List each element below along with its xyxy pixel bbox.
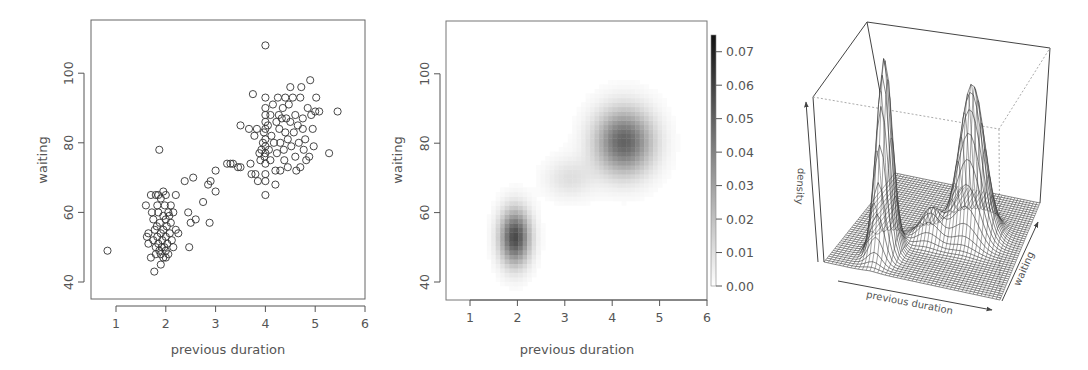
x-tick-label: 5 bbox=[656, 310, 664, 325]
data-point bbox=[151, 268, 158, 275]
data-point bbox=[212, 188, 219, 195]
surface-y-axis-label: waiting bbox=[1011, 250, 1036, 288]
scatter-x-axis: 123456 bbox=[112, 306, 369, 331]
data-point bbox=[212, 167, 219, 174]
data-point bbox=[292, 111, 299, 118]
data-point bbox=[262, 191, 269, 198]
data-point bbox=[147, 254, 154, 261]
x-tick-label: 2 bbox=[162, 316, 170, 331]
scatter-points bbox=[104, 42, 341, 275]
x-tick-label: 1 bbox=[466, 310, 474, 325]
x-tick-label: 6 bbox=[361, 316, 369, 331]
data-point bbox=[294, 122, 301, 129]
data-point bbox=[200, 198, 207, 205]
figure: 123456 406080100 previous duration waiti… bbox=[0, 0, 1088, 370]
heatmap-y-axis: 406080100 bbox=[417, 62, 440, 290]
data-point bbox=[273, 150, 280, 157]
data-point bbox=[288, 143, 295, 150]
data-point bbox=[262, 94, 269, 101]
data-point bbox=[254, 178, 261, 185]
colorbar-tick-label: 0.05 bbox=[726, 111, 754, 126]
x-tick-label: 3 bbox=[212, 316, 220, 331]
data-point bbox=[185, 209, 192, 216]
data-point bbox=[172, 191, 179, 198]
x-tick-label: 4 bbox=[608, 310, 616, 325]
data-point bbox=[290, 129, 297, 136]
data-point bbox=[262, 171, 269, 178]
data-point bbox=[273, 118, 280, 125]
y-tick-label: 100 bbox=[61, 61, 76, 85]
scatter-panel: 123456 406080100 previous duration waiti… bbox=[35, 20, 369, 357]
y-tick-label: 60 bbox=[417, 205, 432, 221]
box-edges-hidden bbox=[813, 48, 1050, 129]
data-point bbox=[284, 164, 291, 171]
y-tick-label: 60 bbox=[61, 204, 76, 220]
data-point bbox=[280, 146, 287, 153]
surface-panel: density previous duration waiting bbox=[794, 22, 1050, 316]
data-point bbox=[281, 157, 288, 164]
heatmap-cells bbox=[487, 80, 681, 291]
data-point bbox=[297, 94, 304, 101]
data-point bbox=[302, 136, 309, 143]
data-point bbox=[237, 122, 244, 129]
x-tick-label: 1 bbox=[112, 316, 120, 331]
data-point bbox=[277, 167, 284, 174]
data-point bbox=[262, 160, 269, 167]
data-point bbox=[307, 77, 314, 84]
data-point bbox=[282, 129, 289, 136]
data-point bbox=[262, 178, 269, 185]
data-point bbox=[247, 160, 254, 167]
data-point bbox=[299, 125, 306, 132]
surface-x-axis-label: previous duration bbox=[865, 289, 953, 317]
colorbar-tick-label: 0.03 bbox=[726, 178, 754, 193]
data-point bbox=[104, 247, 111, 254]
data-point bbox=[190, 174, 197, 181]
data-point bbox=[334, 108, 341, 115]
data-point bbox=[267, 157, 274, 164]
data-point bbox=[326, 150, 333, 157]
data-point bbox=[268, 132, 275, 139]
scatter-y-axis-label: waiting bbox=[35, 136, 50, 183]
box-edges-back bbox=[813, 22, 1050, 97]
data-point bbox=[181, 178, 188, 185]
data-point bbox=[142, 202, 149, 209]
surface-mesh bbox=[824, 59, 1040, 300]
data-point bbox=[272, 181, 279, 188]
data-point bbox=[154, 202, 161, 209]
y-tick-label: 40 bbox=[417, 274, 432, 290]
scatter-y-axis: 406080100 bbox=[61, 61, 84, 290]
data-point bbox=[253, 125, 260, 132]
data-point bbox=[262, 104, 269, 111]
data-point bbox=[192, 216, 199, 223]
data-point bbox=[313, 94, 320, 101]
colorbar-tick-label: 0.02 bbox=[726, 212, 754, 227]
colorbar-tick-label: 0.01 bbox=[726, 245, 754, 260]
box-edge-vertical-right bbox=[1040, 48, 1050, 203]
data-point bbox=[262, 42, 269, 49]
heatmap-x-axis: 123456 bbox=[466, 300, 711, 325]
data-point bbox=[299, 115, 306, 122]
data-point bbox=[287, 84, 294, 91]
data-point bbox=[274, 94, 281, 101]
y-tick-label: 100 bbox=[417, 62, 432, 86]
data-point bbox=[292, 153, 299, 160]
data-point bbox=[300, 146, 307, 153]
data-point bbox=[289, 94, 296, 101]
colorbar-ticks: 0.000.010.020.030.040.050.060.07 bbox=[716, 44, 754, 293]
heatmap-panel: 123456 406080100 previous duration waiti… bbox=[390, 21, 754, 357]
box-edge-vertical-left bbox=[813, 97, 824, 262]
data-point bbox=[156, 146, 163, 153]
data-point bbox=[186, 244, 193, 251]
data-point bbox=[284, 136, 291, 143]
density-axis-arrow bbox=[806, 102, 818, 262]
x-tick-label: 6 bbox=[703, 310, 711, 325]
colorbar-tick-label: 0.04 bbox=[726, 145, 754, 160]
x-tick-label: 4 bbox=[261, 316, 269, 331]
y-tick-label: 40 bbox=[61, 274, 76, 290]
data-point bbox=[157, 261, 164, 268]
data-point bbox=[282, 94, 289, 101]
heatmap-y-axis-label: waiting bbox=[390, 136, 405, 183]
x-tick-label: 5 bbox=[311, 316, 319, 331]
y-tick-label: 80 bbox=[417, 135, 432, 151]
data-point bbox=[249, 91, 256, 98]
